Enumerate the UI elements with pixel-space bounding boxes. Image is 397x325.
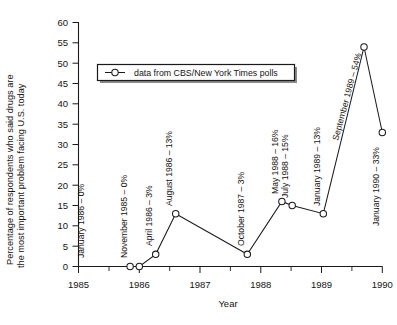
x-tick-label: 1985	[68, 279, 89, 290]
point-label: January 1986 – 0%	[76, 184, 86, 258]
chart-figure: Percentage of respondents who said drugs…	[0, 0, 397, 325]
x-axis-title: Year	[218, 298, 237, 309]
point-label: October 1987 – 3%	[236, 172, 246, 246]
data-point-marker	[153, 251, 159, 257]
point-label: May 1988 – 16%	[270, 129, 280, 194]
legend-sample-marker	[112, 69, 118, 75]
y-tick-label: 40	[57, 98, 68, 109]
data-point-marker	[379, 129, 385, 135]
x-axis-ticks: 1985 1986 1987 1988 1989 1990	[68, 267, 393, 291]
data-point-marker	[244, 251, 250, 257]
data-point-marker	[173, 211, 179, 217]
point-label: August 1986 – 13%	[164, 131, 174, 206]
point-label: April 1986 – 3%	[144, 185, 154, 246]
y-axis-title: Percentage of respondents who said drugs…	[5, 74, 26, 268]
x-tick-label: 1990	[372, 279, 393, 290]
y-tick-label: 20	[57, 180, 68, 191]
y-tick-label: 50	[57, 58, 68, 69]
point-label: November 1985 – 0%	[119, 175, 129, 258]
point-label: January 1990 – 33%	[371, 147, 381, 226]
y-tick-label: 35	[57, 119, 68, 130]
chart-legend[interactable]: data from CBS/New York Times polls	[98, 65, 298, 84]
y-tick-label: 0	[63, 261, 68, 272]
y-tick-label: 25	[57, 159, 68, 170]
point-label: September 1989 – 54%	[330, 51, 363, 141]
y-tick-label: 30	[57, 139, 68, 150]
x-tick-label: 1988	[250, 279, 271, 290]
data-point-marker	[289, 202, 295, 208]
data-point-marker	[279, 198, 285, 204]
data-point-marker	[361, 44, 367, 50]
y-tick-label: 55	[57, 37, 68, 48]
y-tick-label: 5	[63, 241, 68, 252]
y-tick-label: 15	[57, 200, 68, 211]
y-axis-title-line2: the most important problem facing U.S. t…	[16, 83, 26, 268]
point-label: July 1988 – 15%	[280, 134, 290, 198]
data-point-marker	[127, 263, 133, 269]
y-tick-label: 45	[57, 78, 68, 89]
legend-entry-label: data from CBS/New York Times polls	[134, 68, 278, 78]
x-tick-label: 1986	[129, 279, 150, 290]
y-tick-label: 10	[57, 220, 68, 231]
x-tick-label: 1987	[189, 279, 210, 290]
point-label: January 1989 – 13%	[312, 127, 322, 206]
y-tick-label: 60	[57, 17, 68, 28]
y-axis-title-line1: Percentage of respondents who said drugs…	[5, 74, 15, 265]
data-point-marker	[320, 211, 326, 217]
x-tick-label: 1989	[311, 279, 332, 290]
data-point-marker	[136, 263, 142, 269]
